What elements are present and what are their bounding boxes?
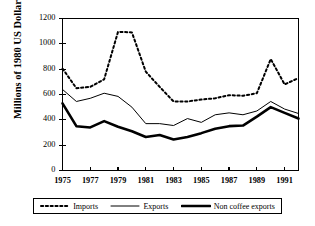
legend-label: Non coffee exports [214,202,275,211]
plot-area [0,0,315,226]
data-series-group [63,32,299,140]
axes-frame [63,19,299,171]
dotted-line-swatch [40,203,70,209]
legend-entry: Non coffee exports [181,202,275,211]
series-line-exports [63,89,299,125]
chart-container: Millions of 1980 US Dollars 020040060080… [0,0,315,226]
thick-line-swatch [181,203,211,209]
legend-label: Imports [73,202,98,211]
thin-line-swatch [110,203,140,209]
legend-label: Exports [143,202,168,211]
legend-entry: Imports [40,202,98,211]
series-line-non-coffee-exports [63,103,299,139]
legend: ImportsExportsNon coffee exports [33,198,282,214]
series-line-imports [63,32,299,102]
legend-entry: Exports [110,202,168,211]
